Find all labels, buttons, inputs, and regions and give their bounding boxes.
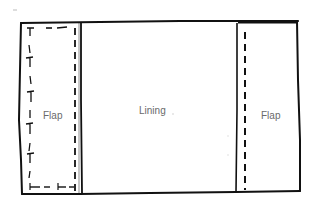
lining-label: Lining	[139, 105, 166, 116]
outer-border-left	[19, 23, 22, 194]
left-flap-label: Flap	[43, 110, 62, 121]
lining-and-flaps-diagram	[0, 0, 314, 206]
left-flap-divider	[81, 23, 82, 193]
outer-border-bottom	[22, 191, 300, 194]
speck	[172, 113, 174, 115]
right-flap-divider	[236, 23, 237, 192]
left-flap-dash-top-2	[57, 27, 67, 28]
outer-border-right	[297, 21, 300, 191]
speck	[227, 154, 229, 156]
left-flap-t-marks	[26, 28, 34, 178]
right-flap-label: Flap	[261, 110, 280, 121]
speck	[227, 135, 229, 137]
